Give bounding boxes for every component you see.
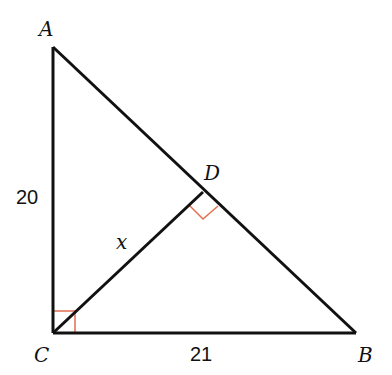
side-cb-length: 21	[190, 343, 212, 365]
altitude-cd	[53, 192, 203, 333]
vertex-label-a: A	[37, 17, 53, 41]
vertex-label-d: D	[203, 161, 220, 185]
vertex-label-c: C	[34, 343, 49, 367]
segment-cd-label: x	[116, 230, 127, 254]
side-ac-length: 20	[16, 186, 38, 208]
vertex-label-b: B	[357, 343, 373, 367]
triangle-diagram: A D C B 20 21 x	[0, 0, 392, 375]
right-angle-marker-d	[189, 205, 218, 219]
